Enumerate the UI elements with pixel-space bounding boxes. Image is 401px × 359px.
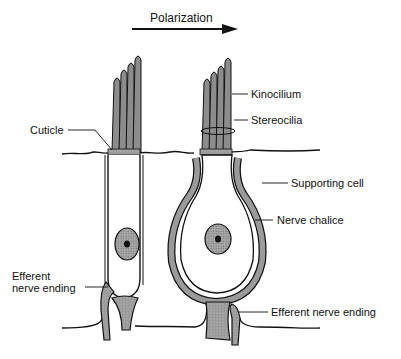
polarization-label: Polarization	[150, 12, 213, 24]
left-stereocilia-bundle	[112, 56, 141, 152]
left-hair-cell	[101, 56, 143, 340]
cuticle-label: Cuticle	[30, 124, 64, 136]
apical-surface	[62, 150, 320, 154]
right-stereocilia-bundle	[202, 58, 231, 152]
right-efferent-nerve	[230, 304, 240, 345]
polarization-arrow	[132, 24, 238, 34]
right-hair-cell	[171, 58, 262, 345]
efferent-left-label-line1: Efferent	[12, 270, 50, 282]
efferent-right-label: Efferent nerve ending	[271, 306, 376, 318]
stereocilia-label: Stereocilia	[251, 114, 302, 126]
efferent-left-label-line2: nerve ending	[12, 282, 76, 294]
supporting-cell-label: Supporting cell	[291, 177, 364, 189]
left-efferent-nerve	[101, 282, 114, 340]
right-cuticle	[200, 149, 232, 155]
nerve-chalice-label: Nerve chalice	[277, 214, 344, 226]
left-cuticle	[108, 149, 140, 155]
kinocilium-label: Kinocilium	[251, 88, 301, 100]
